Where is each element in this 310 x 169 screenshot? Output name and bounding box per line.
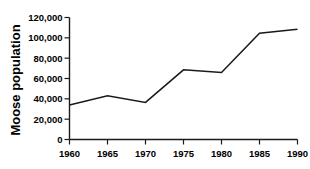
x-tick-label: 1980 [211, 148, 232, 159]
x-tick-label: 1965 [97, 148, 119, 159]
x-axis-tick-marks [70, 140, 298, 145]
y-tick-label: 80,000 [33, 53, 62, 64]
x-axis-tick-labels: 1960196519701975198019851990 [59, 148, 308, 159]
y-axis-tick-labels: 020,00040,00060,00080,000100,000120,000 [28, 12, 62, 145]
x-tick-label: 1975 [173, 148, 195, 159]
y-tick-label: 0 [57, 134, 62, 145]
x-tick-label: 1990 [287, 148, 308, 159]
data-series-line [70, 29, 298, 105]
y-axis-tick-marks [65, 18, 70, 140]
x-tick-label: 1960 [59, 148, 80, 159]
y-tick-label: 120,000 [28, 12, 62, 23]
y-tick-label: 100,000 [28, 32, 62, 43]
x-tick-label: 1970 [135, 148, 156, 159]
y-tick-label: 20,000 [33, 114, 62, 125]
y-tick-label: 40,000 [33, 93, 62, 104]
line-chart: Moose population 020,00040,00060,00080,0… [0, 0, 310, 169]
chart-container: Moose population 020,00040,00060,00080,0… [0, 0, 310, 169]
x-tick-label: 1985 [249, 148, 271, 159]
y-tick-label: 60,000 [33, 73, 62, 84]
y-axis-title: Moose population [8, 24, 23, 135]
